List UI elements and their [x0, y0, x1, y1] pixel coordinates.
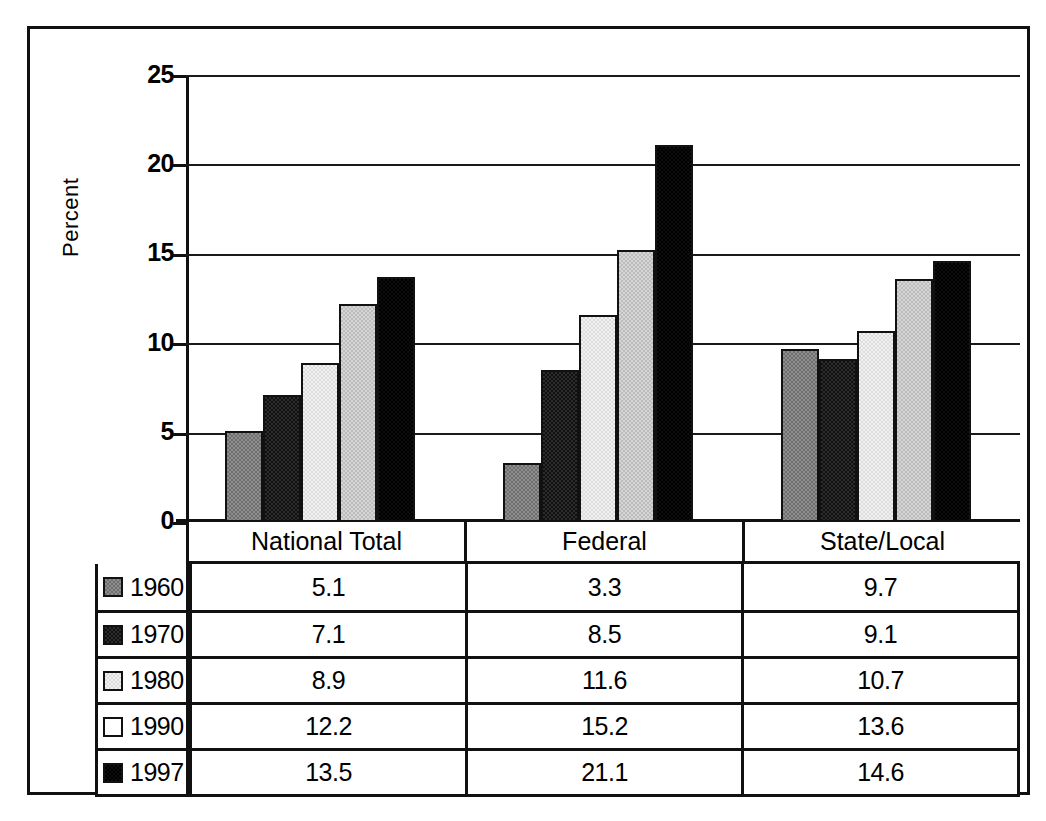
table-row: 1960 5.1 3.3 9.7	[98, 564, 1017, 610]
bar-group-state-local	[742, 75, 1020, 522]
category-header-state-local: State/Local	[742, 522, 1020, 561]
legend-label-1997: 1997	[130, 758, 184, 787]
legend-cell-1960[interactable]: 1960	[98, 564, 189, 610]
cell-1990-state-local: 13.6	[741, 705, 1017, 748]
figure-canvas: Percent 25 20 15 10 5 0	[30, 29, 1033, 798]
bar-state-local-1990[interactable]	[895, 279, 933, 522]
bar-federal-1990[interactable]	[617, 250, 655, 522]
bar-federal-1997[interactable]	[655, 145, 693, 522]
cell-1970-national-total: 7.1	[189, 613, 465, 656]
bar-federal-1960[interactable]	[503, 463, 541, 522]
bar-group-national-total	[186, 75, 464, 522]
cell-1960-federal: 3.3	[465, 564, 741, 610]
plot-area	[186, 75, 1020, 522]
table-row: 1990 12.2 15.2 13.6	[98, 702, 1017, 748]
category-header-federal: Federal	[464, 522, 742, 561]
legend-label-1960: 1960	[130, 573, 184, 602]
category-header-row: National Total Federal State/Local	[186, 522, 1020, 564]
cell-1990-national-total: 12.2	[189, 705, 465, 748]
cell-1970-state-local: 9.1	[741, 613, 1017, 656]
category-header-national-total: National Total	[186, 522, 464, 561]
legend-cell-1980[interactable]: 1980	[98, 659, 189, 702]
bar-group-federal	[464, 75, 742, 522]
legend-swatch-1960-icon	[103, 577, 123, 597]
table-row: 1970 7.1 8.5 9.1	[98, 610, 1017, 656]
legend-label-1980: 1980	[130, 666, 184, 695]
chart-outer-frame: Percent 25 20 15 10 5 0	[27, 26, 1030, 795]
bar-national-total-1997[interactable]	[377, 277, 415, 522]
cell-1960-national-total: 5.1	[189, 564, 465, 610]
bar-national-total-1970[interactable]	[263, 395, 301, 522]
legend-label-1970: 1970	[130, 620, 184, 649]
y-tick-mark-5	[173, 433, 186, 436]
cell-1970-federal: 8.5	[465, 613, 741, 656]
y-axis-title: Percent	[58, 178, 84, 257]
bar-national-total-1990[interactable]	[339, 304, 377, 522]
cell-1997-federal: 21.1	[465, 751, 741, 794]
legend-cell-1997[interactable]: 1997	[98, 751, 189, 794]
bar-state-local-1960[interactable]	[781, 349, 819, 522]
legend-label-1990: 1990	[130, 712, 184, 741]
cell-1960-state-local: 9.7	[741, 564, 1017, 610]
y-tick-mark-10	[173, 343, 186, 346]
legend-swatch-1980-icon	[103, 671, 123, 691]
cell-1997-national-total: 13.5	[189, 751, 465, 794]
cell-1980-federal: 11.6	[465, 659, 741, 702]
y-tick-mark-20	[173, 164, 186, 167]
y-tick-label-10: 10	[126, 330, 174, 355]
y-tick-mark-15	[173, 254, 186, 257]
data-table: 1960 5.1 3.3 9.7 1970 7.1 8.5 9.1 1980	[95, 564, 1020, 797]
cell-1980-national-total: 8.9	[189, 659, 465, 702]
bar-state-local-1980[interactable]	[857, 331, 895, 522]
bar-federal-1980[interactable]	[579, 315, 617, 522]
y-tick-mark-25	[173, 75, 186, 78]
y-tick-label-0: 0	[126, 508, 174, 533]
y-tick-mark-0	[173, 522, 186, 525]
y-tick-label-25: 25	[126, 62, 174, 87]
legend-cell-1990[interactable]: 1990	[98, 705, 189, 748]
table-row: 1980 8.9 11.6 10.7	[98, 656, 1017, 702]
cell-1980-state-local: 10.7	[741, 659, 1017, 702]
bar-federal-1970[interactable]	[541, 370, 579, 522]
legend-cell-1970[interactable]: 1970	[98, 613, 189, 656]
y-tick-label-5: 5	[126, 419, 174, 444]
bar-national-total-1980[interactable]	[301, 363, 339, 522]
legend-swatch-1970-icon	[103, 625, 123, 645]
cell-1990-federal: 15.2	[465, 705, 741, 748]
bar-national-total-1960[interactable]	[225, 431, 263, 522]
legend-swatch-1990-icon	[103, 717, 123, 737]
legend-swatch-1997-icon	[103, 763, 123, 783]
cell-1997-state-local: 14.6	[741, 751, 1017, 794]
bar-state-local-1997[interactable]	[933, 261, 971, 522]
table-row: 1997 13.5 21.1 14.6	[98, 748, 1017, 794]
y-tick-label-20: 20	[126, 151, 174, 176]
bar-state-local-1970[interactable]	[819, 359, 857, 522]
y-tick-label-15: 15	[126, 240, 174, 265]
